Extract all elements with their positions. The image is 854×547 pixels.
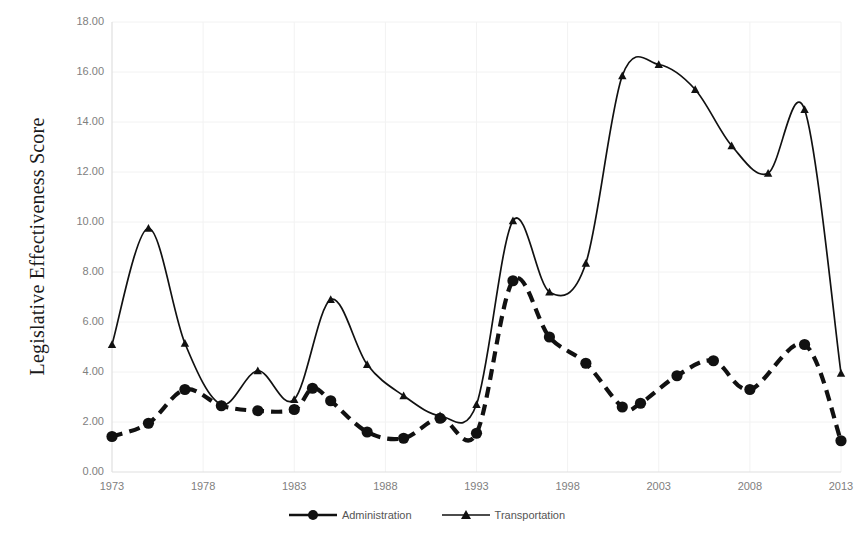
circle-marker-icon	[289, 508, 337, 522]
legend-label-administration: Administration	[342, 509, 412, 521]
y-tick-label: 18.00	[58, 15, 104, 27]
data-point-marker	[635, 398, 646, 409]
x-tick-label: 1993	[454, 480, 500, 492]
data-point-marker	[307, 383, 318, 394]
data-point-marker	[708, 355, 719, 366]
data-point-marker	[618, 72, 626, 80]
x-tick-label: 1998	[545, 480, 591, 492]
data-point-marker	[835, 435, 846, 446]
x-tick-label: 1983	[271, 480, 317, 492]
legend-item-administration[interactable]: Administration	[289, 508, 412, 522]
chart-figure: Legislative Effectiveness Score 0.002.00…	[0, 0, 854, 547]
data-point-marker	[472, 400, 480, 408]
data-point-marker	[471, 428, 482, 439]
x-tick-label: 1973	[89, 480, 135, 492]
data-point-marker	[144, 224, 152, 232]
data-point-marker	[254, 367, 262, 375]
y-tick-label: 2.00	[58, 415, 104, 427]
data-point-marker	[800, 105, 808, 113]
legend-label-transportation: Transportation	[495, 509, 566, 521]
data-point-marker	[744, 384, 755, 395]
data-point-marker	[325, 395, 336, 406]
x-tick-label: 2003	[636, 480, 682, 492]
y-tick-label: 14.00	[58, 115, 104, 127]
data-point-marker	[671, 370, 682, 381]
data-point-marker	[544, 331, 555, 342]
data-point-marker	[582, 259, 590, 267]
data-point-marker	[143, 418, 154, 429]
data-point-marker	[106, 431, 117, 442]
chart-legend: Administration Transportation	[0, 508, 854, 522]
data-point-marker	[507, 275, 518, 286]
y-tick-label: 0.00	[58, 465, 104, 477]
data-point-marker	[398, 433, 409, 444]
data-point-marker	[799, 339, 810, 350]
y-axis-title: Legislative Effectiveness Score	[26, 82, 49, 412]
y-tick-label: 10.00	[58, 215, 104, 227]
y-tick-label: 8.00	[58, 265, 104, 277]
x-tick-label: 2008	[727, 480, 773, 492]
x-tick-label: 1978	[180, 480, 226, 492]
data-point-marker	[179, 384, 190, 395]
data-point-marker	[617, 401, 628, 412]
triangle-marker-icon	[442, 508, 490, 522]
y-tick-label: 6.00	[58, 315, 104, 327]
plot-area	[0, 0, 854, 547]
data-point-marker	[289, 404, 300, 415]
y-tick-label: 4.00	[58, 365, 104, 377]
data-point-marker	[108, 340, 116, 348]
data-point-marker	[580, 358, 591, 369]
x-tick-label: 2013	[818, 480, 854, 492]
data-point-marker	[837, 369, 845, 377]
data-point-marker	[252, 405, 263, 416]
data-point-marker	[362, 426, 373, 437]
data-point-marker	[181, 339, 189, 347]
x-tick-label: 1988	[362, 480, 408, 492]
y-tick-label: 12.00	[58, 165, 104, 177]
legend-item-transportation[interactable]: Transportation	[442, 508, 566, 522]
y-tick-label: 16.00	[58, 65, 104, 77]
